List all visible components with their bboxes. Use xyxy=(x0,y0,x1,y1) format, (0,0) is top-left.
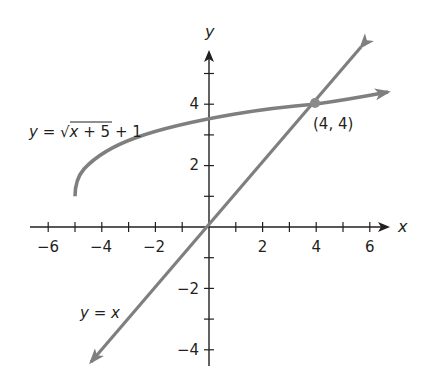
radical-sign: √ xyxy=(60,123,70,141)
intersection-label: (4, 4) xyxy=(313,115,353,133)
x-tick-label-neg4: −4 xyxy=(90,238,112,256)
y-axis-label: y xyxy=(204,22,215,41)
eq-equals: = xyxy=(38,123,60,141)
y-tick-label-4: 4 xyxy=(189,95,199,113)
svg-text:y = √x + 5 + 1: y = √x + 5 + 1 xyxy=(28,123,142,141)
x-tick-label-neg2: −2 xyxy=(143,238,165,256)
x-tick-label-2: 2 xyxy=(258,238,268,256)
eq-tail: + 1 xyxy=(110,123,142,141)
y-tick-label-neg2: −2 xyxy=(177,280,199,298)
x-axis: −6 −4 −2 2 4 6 x xyxy=(30,217,408,256)
y-axis: 4 2 −2 −4 y xyxy=(177,22,215,366)
line-eq-rhs: x xyxy=(110,304,120,322)
x-tick-label-neg6: −6 xyxy=(37,238,59,256)
curve-sqrt-function xyxy=(75,92,388,196)
radicand-rest: + 5 xyxy=(78,123,110,141)
y-tick-label-2: 2 xyxy=(189,156,199,174)
y-tick-label-neg4: −4 xyxy=(177,341,199,359)
line-eq-equals: = xyxy=(89,304,111,322)
x-axis-label: x xyxy=(397,217,408,236)
radicand-var: x xyxy=(69,123,79,141)
x-tick-label-6: 6 xyxy=(365,238,375,256)
sqrt-equation-label: y = √x + 5 + 1 xyxy=(28,122,142,141)
x-tick-label-4: 4 xyxy=(311,238,321,256)
line-y-equals-x xyxy=(91,47,361,362)
intersection-point-marker xyxy=(310,98,320,108)
line-equation-label: y = x xyxy=(79,304,120,322)
graph-canvas: −6 −4 −2 2 4 6 x 4 2 −2 −4 y (4, 4) xyxy=(0,0,432,389)
